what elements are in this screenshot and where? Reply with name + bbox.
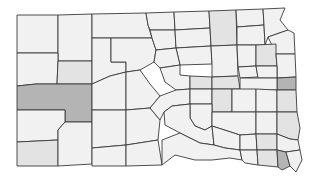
county-region <box>58 122 92 166</box>
county-region <box>190 89 212 104</box>
county-region <box>240 78 277 90</box>
county-region <box>237 45 256 67</box>
county-region <box>175 28 211 48</box>
county-region <box>256 44 277 66</box>
county-region <box>209 10 237 46</box>
county-region <box>58 14 92 61</box>
county-region <box>236 9 264 27</box>
county-region <box>92 110 126 148</box>
county-region <box>176 46 212 65</box>
south-dakota-county-map <box>0 0 312 178</box>
county-region <box>256 134 277 150</box>
county-region <box>17 15 58 53</box>
county-region <box>256 89 277 112</box>
county-region <box>232 89 256 112</box>
county-region <box>211 45 238 77</box>
county-region <box>237 25 265 45</box>
county-region <box>240 134 257 150</box>
county-region <box>17 140 58 166</box>
county-region <box>154 48 180 68</box>
county-region <box>256 66 277 78</box>
county-region <box>257 150 278 167</box>
county-region <box>126 140 162 166</box>
county-region <box>92 13 152 38</box>
county-region <box>174 11 210 30</box>
county-region <box>190 76 212 89</box>
county-region <box>212 76 240 89</box>
county-region <box>57 61 92 84</box>
county-region <box>212 89 232 112</box>
county-region <box>92 145 126 166</box>
county-region <box>146 12 175 30</box>
county-region <box>238 66 258 78</box>
county-region <box>277 90 297 112</box>
county-region <box>17 53 58 86</box>
county-region <box>276 54 296 78</box>
county-region <box>277 77 296 90</box>
county-region <box>256 112 277 134</box>
